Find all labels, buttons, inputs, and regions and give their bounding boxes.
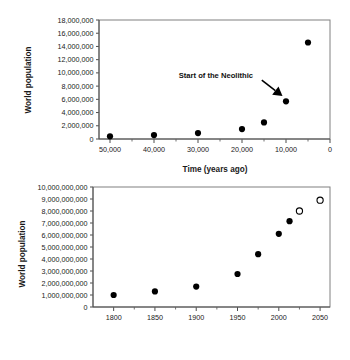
y-axis-title-bottom: World population bbox=[18, 220, 27, 287]
plot-frame-bottom bbox=[93, 187, 330, 307]
annotation-neolithic: Start of the Neolithic bbox=[179, 71, 283, 96]
y-tick-label: 8,000,000,000 bbox=[42, 207, 88, 216]
x-tick-labels-bottom: 180018501900195020002050 bbox=[106, 313, 328, 322]
y-tick-label: 1,000,000,000 bbox=[42, 291, 88, 300]
y-tick-label: 8,000,000 bbox=[62, 82, 94, 91]
y-tick-label: 0 bbox=[84, 303, 88, 312]
data-points-top bbox=[107, 39, 311, 139]
y-tick-labels-top: 02,000,0004,000,0006,000,0008,000,00010,… bbox=[58, 16, 94, 144]
x-ticks-top bbox=[110, 139, 330, 143]
annotation-arrow-head bbox=[272, 86, 282, 96]
data-point-observed bbox=[193, 284, 199, 290]
y-tick-label: 10,000,000,000 bbox=[38, 183, 88, 192]
data-point bbox=[151, 132, 157, 138]
annotation-arrow-shaft bbox=[262, 80, 276, 90]
y-axis-title-top: World population bbox=[24, 46, 33, 113]
x-tick-label: 0 bbox=[328, 145, 332, 154]
modern-population-plot: 01,000,000,0002,000,000,0003,000,000,000… bbox=[0, 176, 350, 360]
data-point-observed bbox=[234, 271, 240, 277]
data-point bbox=[239, 126, 245, 132]
data-point bbox=[107, 133, 113, 139]
data-point-observed bbox=[276, 231, 282, 237]
x-tick-label: 1850 bbox=[147, 313, 163, 322]
x-tick-label: 20,000 bbox=[231, 145, 253, 154]
x-tick-label: 40,000 bbox=[143, 145, 165, 154]
prehistoric-population-plot: 02,000,0004,000,0006,000,0008,000,00010,… bbox=[0, 0, 350, 180]
data-point bbox=[283, 98, 289, 104]
chart-prehistoric-population: 02,000,0004,000,0006,000,0008,000,00010,… bbox=[0, 0, 350, 180]
chart-modern-population: 01,000,000,0002,000,000,0003,000,000,000… bbox=[0, 176, 350, 360]
y-tick-label: 6,000,000 bbox=[62, 95, 94, 104]
data-points-bottom bbox=[111, 197, 324, 298]
y-tick-label: 14,000,000 bbox=[58, 42, 94, 51]
plot-border bbox=[93, 187, 330, 307]
x-tick-label: 2050 bbox=[312, 313, 328, 322]
annotation-label: Start of the Neolithic bbox=[179, 71, 253, 80]
y-tick-label: 4,000,000,000 bbox=[42, 255, 88, 264]
y-tick-label: 16,000,000 bbox=[58, 29, 94, 38]
y-tick-label: 9,000,000,000 bbox=[42, 195, 88, 204]
x-tick-label: 1900 bbox=[188, 313, 204, 322]
y-tick-label: 6,000,000,000 bbox=[42, 231, 88, 240]
x-tick-label: 2000 bbox=[271, 313, 287, 322]
x-tick-label: 50,000 bbox=[99, 145, 121, 154]
data-point-projected bbox=[317, 197, 323, 203]
x-axis-title-top: Time (years ago) bbox=[183, 165, 248, 174]
y-tick-label: 5,000,000,000 bbox=[42, 243, 88, 252]
data-point-observed bbox=[152, 288, 158, 294]
data-point bbox=[261, 119, 267, 125]
data-point-projected bbox=[296, 208, 302, 214]
y-tick-label: 3,000,000,000 bbox=[42, 267, 88, 276]
y-tick-label: 2,000,000,000 bbox=[42, 279, 88, 288]
x-tick-labels-top: 50,00040,00030,00020,00010,0000 bbox=[99, 145, 332, 154]
data-point bbox=[305, 39, 311, 45]
y-tick-label: 2,000,000 bbox=[62, 121, 94, 130]
data-point-observed bbox=[255, 251, 261, 257]
y-tick-label: 4,000,000 bbox=[62, 108, 94, 117]
data-point-observed bbox=[111, 292, 117, 298]
x-ticks-bottom bbox=[114, 307, 320, 311]
x-tick-label: 10,000 bbox=[275, 145, 297, 154]
y-tick-label: 12,000,000 bbox=[58, 55, 94, 64]
world-population-figure: 02,000,0004,000,0006,000,0008,000,00010,… bbox=[0, 0, 350, 360]
x-tick-label: 1800 bbox=[106, 313, 122, 322]
y-tick-label: 18,000,000 bbox=[58, 16, 94, 25]
x-tick-label: 30,000 bbox=[187, 145, 209, 154]
data-point bbox=[195, 130, 201, 136]
y-tick-label: 0 bbox=[90, 135, 94, 144]
y-tick-labels-bottom: 01,000,000,0002,000,000,0003,000,000,000… bbox=[38, 183, 88, 312]
y-tick-label: 7,000,000,000 bbox=[42, 219, 88, 228]
y-tick-label: 10,000,000 bbox=[58, 68, 94, 77]
x-tick-label: 1950 bbox=[230, 313, 246, 322]
data-point-observed bbox=[286, 218, 292, 224]
